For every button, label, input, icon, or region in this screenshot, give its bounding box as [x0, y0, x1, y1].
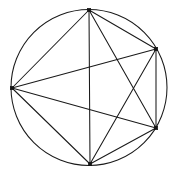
- vertex-upper-right: [154, 47, 157, 50]
- vertex-bottom: [88, 162, 91, 165]
- chord-upper-right-to-left: [12, 49, 156, 88]
- chord-top-to-bottom: [89, 10, 90, 164]
- vertex-top: [87, 8, 90, 11]
- vertex-layer: [10, 8, 157, 165]
- geometry-figure: [0, 0, 172, 176]
- inscribed-graph-svg: [0, 0, 172, 176]
- vertex-lower-right: [154, 126, 157, 129]
- chord-bottom-to-left: [12, 88, 90, 164]
- vertex-left: [10, 86, 13, 89]
- chord-top-to-lower-right: [89, 10, 156, 128]
- chord-upper-right-to-bottom: [90, 49, 156, 164]
- chord-top-to-upper-right: [89, 10, 156, 49]
- chord-top-to-left: [12, 10, 89, 88]
- chord-lower-right-to-left: [12, 88, 156, 128]
